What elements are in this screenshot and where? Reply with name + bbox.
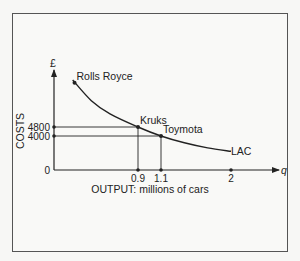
y-tick-label: 4800 [28, 122, 51, 133]
label-toymota: Toymota [163, 123, 203, 135]
lac-label: LAC [231, 145, 252, 157]
label-rolls-royce: Rolls Royce [77, 70, 133, 82]
y-tick-label: 0 [44, 165, 50, 176]
x-tick-dot [229, 168, 233, 172]
y-axis-symbol: £ [50, 57, 56, 69]
x-axis-symbol: q [281, 164, 287, 176]
x-tick-label: 2 [228, 173, 234, 184]
x-axis-title: OUTPUT: millions of cars [91, 183, 208, 195]
x-tick-label: 1.1 [154, 173, 168, 184]
x-tick-label: 0.9 [131, 173, 145, 184]
y-axis-title: COSTS [14, 113, 26, 149]
chart: £ q COSTS OUTPUT: millions of cars 0.91.… [0, 0, 300, 261]
